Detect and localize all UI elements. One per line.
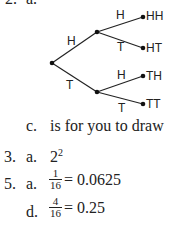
branch-label-upper-ht: T [117, 40, 124, 54]
branch-label-root-lower: T [66, 78, 73, 92]
problem-3-part-a-label: a. [26, 148, 37, 166]
fraction-5a: 1 16 [49, 168, 62, 191]
problem-5d-result: = 0.25 [64, 199, 105, 217]
problem-3-answer: 22 [50, 148, 63, 166]
outcome-ht: HT [146, 41, 162, 55]
fraction-5a-numerator: 1 [52, 168, 60, 179]
power-exponent: 2 [58, 147, 63, 158]
problem-5d-answer: 4 16 = 0.25 [49, 196, 105, 219]
branch-label-root-upper: H [67, 34, 76, 48]
leaf-th-dot [141, 74, 146, 79]
leaf-hh-dot [141, 15, 146, 20]
node-upper-dot [95, 30, 100, 35]
problem-5a-result: = 0.0625 [64, 171, 121, 189]
branch-label-upper-hh: H [116, 8, 125, 22]
fraction-5d-denominator: 16 [49, 207, 62, 219]
node-lower-dot [95, 90, 100, 95]
problem-5a-answer: 1 16 = 0.0625 [49, 168, 121, 191]
fraction-5d-numerator: 4 [52, 196, 60, 207]
node-root-dot [50, 61, 55, 66]
leaf-ht-dot [141, 46, 146, 51]
problem-2-part-c-text: is for you to draw [50, 117, 164, 135]
fraction-5d: 4 16 [49, 196, 62, 219]
problem-2-part-c-label: c. [26, 117, 37, 135]
branch-label-lower-tt: T [118, 101, 125, 115]
problem-5-number: 5. [4, 175, 16, 193]
outcome-th: TH [146, 69, 162, 83]
outcome-tt: TT [146, 97, 161, 111]
problem-3-number: 3. [4, 148, 16, 166]
outcome-hh: HH [146, 9, 163, 23]
branch-label-lower-th: H [117, 68, 126, 82]
branch-root-lower [52, 63, 97, 92]
power-base: 2 [50, 148, 58, 165]
leaf-tt-dot [141, 102, 146, 107]
problem-5-part-a-label: a. [26, 175, 37, 193]
fraction-5a-denominator: 16 [49, 179, 62, 191]
problem-5-part-d-label: d. [26, 203, 38, 221]
